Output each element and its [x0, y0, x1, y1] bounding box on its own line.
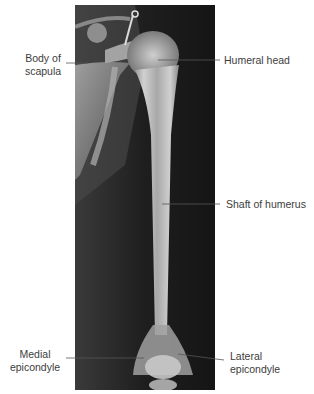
label-body-of-scapula: Body of scapula — [22, 52, 64, 78]
leader-lateral-epicondyle — [178, 354, 224, 360]
label-humeral-head: Humeral head — [224, 54, 290, 67]
label-shaft-of-humerus: Shaft of humerus — [226, 198, 306, 211]
label-medial-epicondyle: Medial epicondyle — [6, 348, 64, 374]
label-lateral-epicondyle: Lateral epicondyle — [230, 350, 280, 376]
